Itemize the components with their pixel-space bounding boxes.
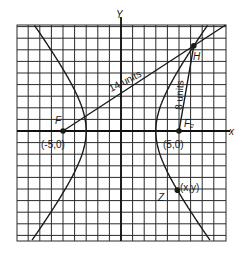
focus-2-point [176,128,182,134]
hyperbola-diagram: Y x F (-5,0) F₂ (5,0) H Z (x,y) 14 units… [0,0,247,254]
point-z-label: Z [157,192,165,203]
point-z-coord-label: (x,y) [180,182,199,193]
focus-1-point [60,128,66,134]
y-axis-label: Y [116,9,124,20]
focus-2-coord-label: (5,0) [163,139,184,150]
focus-1-label: F [55,115,62,126]
focus-2-label: F₂ [184,118,194,129]
x-axis-label: x [228,126,235,137]
focus-1-coord-label: (-5,0) [41,139,65,150]
segment-8-units-label: 8 units [173,80,186,110]
point-h [191,43,197,49]
points [60,43,196,193]
point-h-label: H [193,51,201,62]
